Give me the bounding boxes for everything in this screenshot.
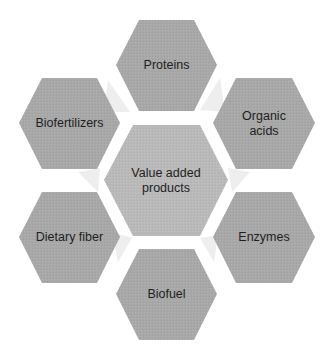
center-label: Value added products xyxy=(126,125,206,236)
node-label-organic-acids: Organic acids xyxy=(228,78,300,169)
node-label-biofertilizers: Biofertilizers xyxy=(19,78,120,169)
node-label-biofuel: Biofuel xyxy=(116,249,217,340)
node-label-enzymes: Enzymes xyxy=(213,192,315,283)
node-label-dietary-fiber: Dietary fiber xyxy=(19,192,120,283)
node-label-proteins: Proteins xyxy=(116,20,217,111)
